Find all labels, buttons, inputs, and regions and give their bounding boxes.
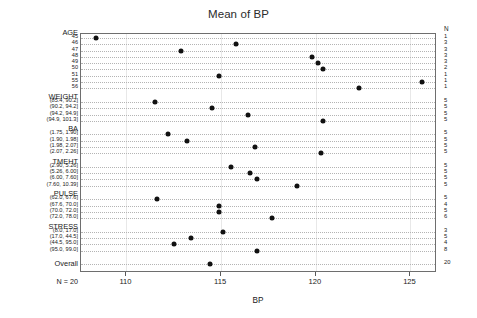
x-tick [409,272,410,276]
chart-container: Mean of BP AGE454647484950515556WEIGHT(8… [0,0,477,318]
data-point[interactable] [188,236,193,241]
data-point[interactable] [94,35,99,40]
data-point[interactable] [217,209,222,214]
level-label: 49 [4,59,78,65]
row-guideline [81,108,435,109]
n-column-header: N [444,25,449,32]
data-point[interactable] [255,248,260,253]
data-point[interactable] [321,67,326,72]
group-label-overall: Overall [4,259,78,268]
level-label: 47 [4,47,78,53]
row-guideline [81,63,435,64]
data-point[interactable] [166,132,171,137]
data-point[interactable] [315,61,320,66]
data-point[interactable] [209,106,214,111]
level-label: 51 [4,72,78,78]
level-label: (94.9, 101.3] [4,117,78,123]
level-label: 55 [4,78,78,84]
level-label: (2.07, 2.26] [4,149,78,155]
level-label: (72.0, 78.0] [4,214,78,220]
data-point[interactable] [294,183,299,188]
row-guideline [81,167,435,168]
data-point[interactable] [310,54,315,59]
row-guideline [81,134,435,135]
level-label: 45 [4,34,78,40]
row-guideline [81,44,435,45]
row-guideline [81,38,435,39]
data-point[interactable] [228,164,233,169]
x-axis: BP 110115120125 [80,272,436,318]
plot-area [80,33,436,272]
row-guideline [81,57,435,58]
n-value: 1 [444,84,447,90]
x-tick [315,272,316,276]
row-guideline [81,88,435,89]
data-point[interactable] [245,112,250,117]
row-guideline [81,218,435,219]
data-point[interactable] [171,242,176,247]
x-tick [125,272,126,276]
row-guideline [81,51,435,52]
x-axis-title: BP [80,296,436,305]
data-point[interactable] [319,151,324,156]
row-guideline [81,264,435,265]
data-point[interactable] [357,86,362,91]
level-label: (90.2, 94.2] [4,104,78,110]
n-value: 5 [444,182,447,188]
data-point[interactable] [255,177,260,182]
row-guideline [81,238,435,239]
n-value: 5 [444,117,447,123]
x-tick-label: 125 [403,277,416,286]
row-guideline [81,206,435,207]
data-point[interactable] [270,216,275,221]
row-guideline [81,232,435,233]
data-point[interactable] [152,99,157,104]
level-label: (7.60, 10.39] [4,182,78,188]
n-column: N 1333321115555555555555456354820 [444,0,477,318]
x-tick [220,272,221,276]
level-label: 56 [4,84,78,90]
x-tick-label: 110 [119,277,131,286]
row-guideline [81,82,435,83]
level-label: 46 [4,40,78,46]
n-total-note: N = 20 [0,277,78,286]
data-point[interactable] [253,145,258,150]
level-label: 48 [4,53,78,59]
n-value: 6 [444,214,447,220]
row-guideline [81,69,435,70]
n-value: 5 [444,149,447,155]
row-guideline [81,147,435,148]
row-guideline [81,173,435,174]
data-point[interactable] [247,171,252,176]
data-point[interactable] [154,197,159,202]
data-point[interactable] [217,73,222,78]
data-point[interactable] [321,118,326,123]
data-point[interactable] [179,48,184,53]
level-label: (95.0, 99.0] [4,247,78,253]
x-tick-label: 120 [308,277,321,286]
data-point[interactable] [217,203,222,208]
n-value: 8 [444,247,447,253]
row-guideline [81,141,435,142]
data-point[interactable] [207,262,212,267]
row-guideline [81,102,435,103]
level-label: 50 [4,65,78,71]
category-axis-labels: AGE454647484950515556WEIGHT(85.4, 90.2](… [0,0,78,318]
row-guideline [81,76,435,77]
row-guideline [81,212,435,213]
row-guideline [81,121,435,122]
row-guideline [81,115,435,116]
row-guideline [81,153,435,154]
data-point[interactable] [419,80,424,85]
x-tick-label: 115 [214,277,226,286]
row-guideline [81,199,435,200]
data-point[interactable] [234,42,239,47]
row-guideline [81,244,435,245]
n-value: 20 [444,260,450,266]
data-point[interactable] [185,138,190,143]
data-point[interactable] [221,229,226,234]
row-guideline [81,186,435,187]
